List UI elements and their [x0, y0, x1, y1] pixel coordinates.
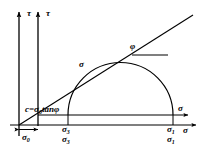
cohesion-equation-tail: tanφ	[42, 104, 59, 114]
mohr-circle	[68, 63, 173, 116]
tau-axis-right-label: τ	[46, 9, 50, 18]
cohesion-equation-subscript: 0	[39, 109, 42, 115]
cohesion-equation: c=σ0tanφ	[25, 105, 59, 114]
sigma-zero-label: σ0	[22, 133, 30, 142]
sigma-one-label-a: σ1	[167, 125, 175, 134]
mohr-coulomb-figure: τ τ σ σ φ σ c=σ0tanφ σ0 σ3 σ3 σ1 σ1	[0, 0, 205, 148]
sigma-zero-subscript: 0	[27, 137, 30, 143]
cohesion-equation-main: c=σ	[25, 104, 39, 114]
sigma-three-label-b: σ3	[62, 135, 70, 144]
tau-axis-left-label: τ	[27, 9, 31, 18]
sigma-one-b-subscript: 1	[172, 139, 175, 145]
phi-angle-label: φ	[130, 42, 135, 51]
sigma-three-b-subscript: 3	[67, 139, 70, 145]
sigma-three-label-a: σ3	[62, 125, 70, 134]
sigma-tangent-label: σ	[79, 60, 84, 69]
sigma-one-label-b: σ1	[167, 135, 175, 144]
sigma-axis-lower-label: σ	[183, 126, 188, 135]
sigma-axis-upper-label: σ	[178, 104, 183, 113]
